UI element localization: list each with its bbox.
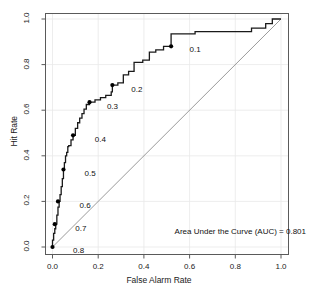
threshold-label: 0.7	[75, 225, 86, 233]
roc-chart-svg	[0, 0, 318, 296]
plot-frame	[46, 14, 289, 255]
roc-plot-container: False Alarm Rate Hit Rate Area Under the…	[0, 0, 318, 296]
y-tick-label: 1.0	[23, 7, 31, 29]
y-tick-label: 0.6	[23, 98, 31, 120]
y-axis-title: Hit Rate	[10, 101, 19, 161]
y-tick-label: 0.0	[23, 235, 31, 257]
y-tick-label: 0.4	[23, 144, 31, 166]
x-tick-label: 0.6	[178, 263, 202, 271]
threshold-label: 0.2	[131, 86, 142, 94]
threshold-label: 0.3	[107, 103, 118, 111]
auc-annotation: Area Under the Curve (AUC) = 0.801	[175, 228, 306, 236]
threshold-label: 0.1	[190, 46, 201, 54]
threshold-label: 0.6	[79, 202, 90, 210]
x-tick-label: 0.2	[86, 263, 110, 271]
x-tick-label: 0.8	[223, 263, 247, 271]
threshold-label: 0.8	[73, 247, 84, 255]
gridlines	[46, 14, 289, 255]
x-tick-label: 1.0	[269, 263, 293, 271]
threshold-label: 0.4	[95, 136, 106, 144]
x-axis-title: False Alarm Rate	[0, 276, 318, 285]
threshold-label: 0.5	[84, 170, 95, 178]
y-tick-label: 0.8	[23, 53, 31, 75]
y-tick-label: 0.2	[23, 189, 31, 211]
x-tick-label: 0.4	[132, 263, 156, 271]
chance-diagonal-line	[53, 19, 282, 247]
x-tick-label: 0.0	[41, 263, 65, 271]
